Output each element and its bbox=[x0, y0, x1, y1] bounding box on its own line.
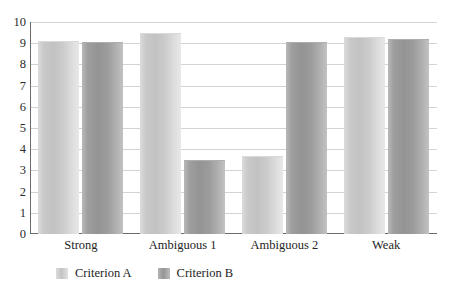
legend-label: Criterion A bbox=[75, 267, 132, 280]
bar-ambiguous-2-criterion-a bbox=[242, 156, 283, 234]
y-axis-tick-label: 0 bbox=[0, 228, 26, 241]
bar-strong-criterion-b bbox=[82, 42, 123, 234]
y-axis-tick-label: 9 bbox=[0, 37, 26, 50]
y-axis-tick-label: 6 bbox=[0, 101, 26, 114]
chart-legend: Criterion ACriterion B bbox=[30, 262, 437, 284]
legend-label: Criterion B bbox=[177, 267, 234, 280]
y-axis-tick-label: 2 bbox=[0, 185, 26, 198]
bar-weak-criterion-a bbox=[344, 37, 385, 234]
bar-strong-criterion-a bbox=[38, 41, 79, 234]
x-axis-tick-label: Strong bbox=[30, 239, 132, 252]
x-axis-tick-label: Ambiguous 2 bbox=[234, 239, 336, 252]
y-axis-tick-label: 5 bbox=[0, 122, 26, 135]
bar-chart: 012345678910 StrongAmbiguous 1Ambiguous … bbox=[0, 0, 463, 291]
y-axis-tick-label: 10 bbox=[0, 16, 26, 29]
bar-ambiguous-1-criterion-b bbox=[184, 160, 225, 234]
legend-swatch-criterion-a bbox=[56, 268, 68, 279]
y-axis-tick-label: 4 bbox=[0, 143, 26, 156]
y-axis-tick-label: 1 bbox=[0, 207, 26, 220]
y-axis-tick-label: 7 bbox=[0, 79, 26, 92]
x-axis-tick-label: Ambiguous 1 bbox=[132, 239, 234, 252]
bars-layer bbox=[30, 22, 437, 234]
bar-weak-criterion-b bbox=[388, 39, 429, 234]
legend-item: Criterion B bbox=[158, 267, 234, 280]
legend-item: Criterion A bbox=[56, 267, 132, 280]
legend-swatch-criterion-b bbox=[158, 268, 170, 279]
y-axis-tick-label: 3 bbox=[0, 164, 26, 177]
x-axis-tick-label: Weak bbox=[335, 239, 437, 252]
bar-ambiguous-1-criterion-a bbox=[140, 33, 181, 234]
bar-ambiguous-2-criterion-b bbox=[286, 42, 327, 234]
y-axis-tick-label: 8 bbox=[0, 58, 26, 71]
